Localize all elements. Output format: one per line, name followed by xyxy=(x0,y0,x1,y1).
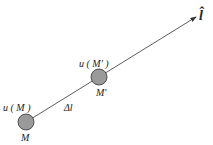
point-label-m-prime: M' xyxy=(95,87,107,98)
value-label-m: u ( M ) xyxy=(3,102,31,114)
point-label-m: M xyxy=(20,132,30,143)
segment-label: Δl xyxy=(63,102,73,113)
direction-label: l̂ xyxy=(199,6,205,23)
directional-derivative-diagram: l̂ Δl u ( M ) M u ( M' ) M' xyxy=(0,0,213,145)
direction-line xyxy=(26,17,196,122)
point-m xyxy=(18,114,34,130)
point-m-prime xyxy=(91,69,107,85)
value-label-m-prime: u ( M' ) xyxy=(79,58,109,70)
